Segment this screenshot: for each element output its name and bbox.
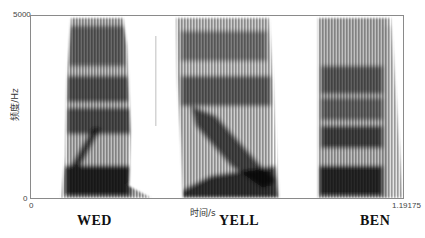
x-tick-max: 1.19175	[392, 201, 421, 210]
word-label-yell: YELL	[219, 213, 259, 229]
word-label-wed: WED	[77, 213, 112, 229]
noise-streak	[155, 36, 157, 126]
x-axis-label: 时间/s	[190, 206, 216, 219]
x-tick-min: 0	[29, 201, 33, 210]
y-axis-label: 频度/Hz	[8, 81, 21, 129]
y-tick-max: 5000	[13, 10, 31, 19]
spectrogram-graphic	[31, 16, 404, 199]
y-tick-min: 0	[23, 194, 27, 203]
word-label-ben: BEN	[360, 213, 390, 229]
spectrogram-plot-area	[30, 15, 404, 199]
segment-ben	[31, 16, 404, 199]
